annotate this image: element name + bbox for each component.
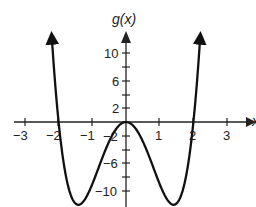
svg-text:1: 1: [155, 128, 162, 143]
svg-text:6: 6: [112, 74, 119, 89]
svg-text:−10: −10: [95, 184, 117, 199]
svg-text:3: 3: [223, 128, 230, 143]
function-graph: x g(x) −3 −2 −1 1 2 3 10 6 2 −2 −6: [0, 0, 256, 207]
y-axis-arrow-icon: [121, 31, 131, 43]
svg-text:2: 2: [112, 101, 119, 116]
x-tick-labels: −3 −2 −1 1 2 3: [13, 128, 230, 143]
svg-text:−3: −3: [13, 128, 28, 143]
svg-text:10: 10: [104, 46, 118, 61]
y-axis-label: g(x): [112, 11, 136, 27]
svg-text:−1: −1: [80, 128, 95, 143]
x-axis-label: x: [251, 113, 256, 129]
svg-text:−6: −6: [103, 156, 118, 171]
